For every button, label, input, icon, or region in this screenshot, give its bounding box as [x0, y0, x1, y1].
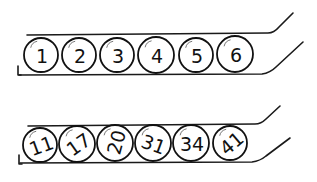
lottery-ball: 5 [179, 38, 213, 72]
lottery-tubes-illustration: 123456 111720313441 [0, 0, 317, 182]
lottery-ball: 41 [213, 126, 248, 160]
lottery-ball: 4 [138, 37, 174, 73]
ball-number: 2 [74, 45, 86, 67]
ball-number: 6 [230, 44, 242, 66]
ball-number: 4 [151, 45, 163, 67]
top-tube: 123456 [18, 13, 303, 75]
ball-number: 1 [36, 45, 48, 67]
top-tube-upper-edge [27, 13, 293, 35]
lottery-ball: 6 [217, 36, 253, 72]
lottery-ball: 34 [173, 125, 209, 161]
bottom-tube-upper-edge [28, 106, 280, 126]
top-tube-balls: 123456 [24, 36, 253, 73]
top-tube-end-cap [18, 66, 21, 75]
lottery-ball: 11 [23, 128, 57, 162]
lottery-ball: 2 [62, 38, 96, 72]
ball-number: 5 [191, 45, 203, 67]
lottery-ball: 1 [24, 38, 58, 72]
ball-number: 3 [112, 45, 124, 67]
ball-number: 34 [180, 133, 204, 155]
lottery-ball: 17 [59, 126, 95, 162]
bottom-tube-balls: 111720313441 [23, 125, 248, 162]
bottom-tube: 111720313441 [19, 106, 290, 164]
lottery-ball: 20 [97, 125, 133, 161]
lottery-ball: 31 [135, 125, 171, 161]
lottery-ball: 3 [100, 38, 134, 72]
